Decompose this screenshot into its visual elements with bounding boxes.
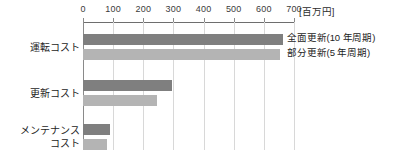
x-axis-tick-label: 0 [80,4,85,14]
bar [83,49,280,60]
plot-area [83,22,294,150]
chart-legend: 全面更新(10 年周期)部分更新(5 年周期) [287,30,375,60]
x-axis-tick-label: 200 [135,4,151,14]
bar [83,34,283,45]
bar [83,80,172,91]
x-axis-tick-label: 100 [105,4,121,14]
bar [83,124,110,135]
category-labels: 運転コスト更新コストメンテナンス コスト [0,0,80,162]
legend-item: 全面更新(10 年周期) [287,30,375,44]
category-label: 更新コスト [0,87,80,100]
bar [83,95,157,106]
x-axis-tick-label: 500 [226,4,242,14]
category-label: 運転コスト [0,41,80,54]
x-axis-tick-label: 600 [256,4,272,14]
tick-mark [294,18,295,22]
bar [83,139,107,150]
bar-chart: 0100200300400500600700 [百万円] 運転コスト更新コストメ… [0,0,395,162]
x-axis-tick-label: 300 [166,4,182,14]
x-axis-tick-label: 400 [196,4,212,14]
legend-label: 全面更新(10 年周期) [287,30,375,44]
x-axis-unit-label: [百万円] [299,4,334,18]
legend-item: 部分更新(5 年周期) [287,45,375,59]
legend-label: 部分更新(5 年周期) [287,45,370,59]
category-label: メンテナンス コスト [0,124,80,150]
